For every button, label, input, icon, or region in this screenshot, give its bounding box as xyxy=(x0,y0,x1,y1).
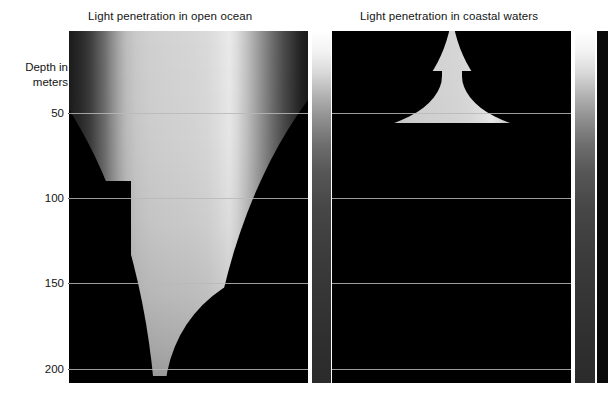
gridline-150-open-ocean xyxy=(69,283,308,284)
gridline-150-coastal-waters xyxy=(332,283,571,284)
gridline-50-coastal-waters xyxy=(332,113,571,114)
mask-aphotic-coastal-waters xyxy=(332,123,571,383)
y-axis-label: Depth in meters xyxy=(6,60,68,90)
gridline-50-open-ocean xyxy=(69,113,308,114)
y-tick-label-150: 150 xyxy=(22,277,64,289)
dark-bar-right-edge xyxy=(597,31,608,383)
y-tick-label-100: 100 xyxy=(22,192,64,204)
panel-title-coastal-waters: Light penetration in coastal waters xyxy=(360,10,538,23)
light-penetration-figure: Light penetration in open ocean Light pe… xyxy=(0,0,615,396)
y-tick-label-200: 200 xyxy=(22,363,64,375)
mask-floor-open-ocean xyxy=(69,376,308,383)
y-axis-label-line2: meters xyxy=(33,76,68,88)
gridline-100-coastal-waters xyxy=(332,198,571,199)
gridline-200-coastal-waters xyxy=(332,369,571,370)
y-tick-label-50: 50 xyxy=(22,107,64,119)
plot-coastal-waters xyxy=(332,31,571,383)
gradient-strip-middle xyxy=(312,31,331,383)
plot-open-ocean xyxy=(69,31,308,383)
gridline-200-open-ocean xyxy=(69,369,308,370)
gradient-strip-right xyxy=(575,31,595,383)
y-axis-label-line1: Depth in xyxy=(25,61,68,73)
gridline-100-open-ocean xyxy=(69,198,308,199)
panel-title-open-ocean: Light penetration in open ocean xyxy=(88,10,252,23)
